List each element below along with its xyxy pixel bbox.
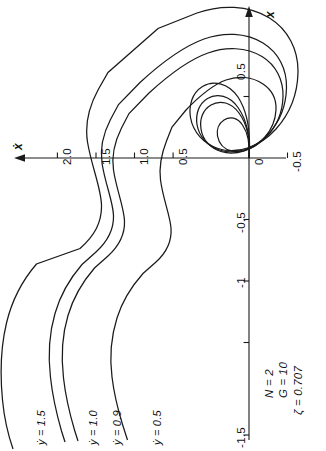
tick-marks-xdot: [57, 153, 287, 159]
curve-label-ydot-0-9: ẏ = 0.9: [112, 410, 123, 445]
trajectory-ydot-0-9: [62, 49, 283, 441]
xdot-tick-label-1-5: 1.5: [101, 148, 113, 165]
curve-label-ydot-1-5: ẏ = 1.5: [36, 410, 47, 445]
curve-label-ydot-0-5: ẏ = 0.5: [152, 410, 163, 445]
phase-plane-figure: 2.0 1.5 1.0 0.5 0 -0.5 0.5 -0.5 -1 -1.5 …: [0, 0, 326, 451]
x-tick-label-0-5: 0.5: [236, 63, 248, 80]
xdot-tick-label-2-0: 2.0: [62, 148, 74, 165]
xdot-tick-label-1-0: 1.0: [139, 148, 151, 165]
axis-label-x: x: [264, 11, 276, 18]
x-tick-label-neg-1-5: -1.5: [236, 427, 248, 448]
curve-label-ydot-1-0: ẏ = 1.0: [88, 410, 99, 445]
xdot-tick-label-neg-0-5: -0.5: [292, 151, 304, 172]
x-tick-label-neg-0-5: -0.5: [236, 212, 248, 233]
trajectory-ydot-0-5: [111, 77, 276, 440]
trajectory-ydot-1-0: [49, 34, 286, 442]
param-g: G = 10: [278, 362, 290, 398]
param-n: N = 2: [264, 369, 276, 398]
axis-label-xdot: ẋ: [12, 143, 24, 150]
xdot-tick-label-0-5: 0.5: [178, 148, 190, 165]
xdot-tick-label-0: 0: [254, 158, 266, 165]
param-zeta: ζ = 0.707: [293, 366, 305, 415]
x-tick-label-neg-1: -1: [236, 277, 248, 288]
